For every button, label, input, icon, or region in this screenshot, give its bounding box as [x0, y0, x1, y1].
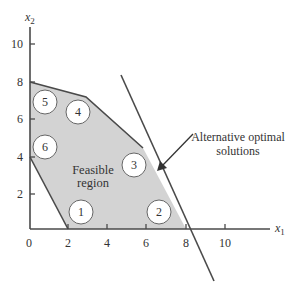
constraint-marker-4: 4 [66, 100, 90, 124]
constraint-marker-5: 5 [33, 90, 57, 114]
constraint-marker-3: 3 [122, 153, 146, 177]
x-tick-label-2: 2 [65, 236, 71, 250]
lp-feasible-region-diagram: 0 2 4 6 8 10 2 4 6 8 10 x2 x1 1 2 3 [0, 0, 301, 295]
constraint-marker-2: 2 [147, 200, 171, 224]
alternative-optimal-label-line2: solutions [216, 144, 260, 158]
constraint-marker-6: 6 [33, 135, 57, 159]
svg-text:5: 5 [42, 95, 48, 109]
svg-text:2: 2 [156, 205, 162, 219]
x-tick-label-6: 6 [143, 236, 149, 250]
y-tick-label-2: 2 [17, 187, 23, 201]
x-tick-label-10: 10 [219, 236, 231, 250]
feasible-region-label-line1: Feasible [72, 163, 114, 177]
x-tick-label-8: 8 [183, 236, 189, 250]
y-axis-label: x2 [24, 10, 35, 26]
x-tick-label-4: 4 [104, 236, 110, 250]
y-tick-label-8: 8 [17, 75, 23, 89]
svg-text:6: 6 [42, 140, 48, 154]
alternative-optimal-label-line1: Alternative optimal [191, 130, 285, 144]
y-tick-label-4: 4 [17, 150, 23, 164]
x-tick-label-0: 0 [26, 236, 32, 250]
feasible-region-label-line2: region [77, 176, 110, 190]
svg-text:3: 3 [131, 158, 137, 172]
svg-text:4: 4 [75, 105, 81, 119]
svg-text:1: 1 [78, 205, 84, 219]
constraint-marker-1: 1 [69, 200, 93, 224]
y-tick-label-10: 10 [11, 37, 23, 51]
x-axis-label: x1 [274, 221, 285, 237]
y-tick-label-6: 6 [17, 112, 23, 126]
annotation-arrow-shaft [162, 134, 193, 166]
